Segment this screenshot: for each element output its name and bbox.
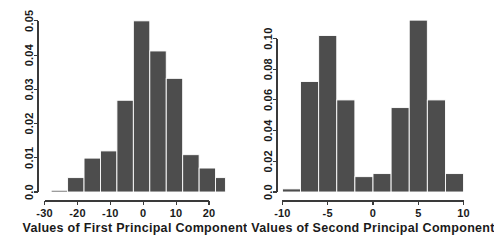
second-pc-x-tick-label: -10 [274,207,291,219]
first-pc-x-tick-label: 10 [170,207,183,219]
first-pc-x-tick-label: 20 [203,207,216,219]
histogram-bar [391,108,409,192]
first-pc-bars [51,21,225,192]
panel-second-principal-component: 0.00.020.040.060.080.10-10-50510Values o… [247,0,494,237]
second-pc-y-tick-label: 0.08 [262,58,274,80]
histogram-bar [355,177,373,192]
histogram-bar [100,151,116,192]
second-pc-y-tick-label: 0.0 [262,184,274,200]
first-pc-x-tick-label: -10 [102,207,119,219]
histogram-bar [166,78,182,192]
histogram-bar [150,51,166,192]
histogram-bar [84,158,100,192]
first-pc-y-tick-label: 0.03 [23,78,35,100]
second-pc-x-tick-label: 5 [415,207,421,219]
chart-first-principal-component: 0.00.010.020.030.040.05-30-20-1001020Val… [0,0,247,237]
histogram-bar [68,178,84,192]
histogram-bar [319,35,337,192]
first-pc-x-tick-label: 0 [140,207,146,219]
second-pc-y-tick-label: 0.06 [262,89,274,111]
histogram-bar [199,168,215,192]
histogram-bar [183,155,199,192]
second-pc-x-tick-label: 10 [457,207,470,219]
first-pc-y-tick-label: 0.05 [23,10,35,32]
first-pc-x-axis-title: Values of First Principal Component [22,221,247,235]
second-pc-x-tick-label: -5 [323,207,333,219]
histogram-bar [117,100,133,192]
histogram-bar [216,178,226,192]
histogram-figure: 0.00.010.020.030.040.05-30-20-1001020Val… [0,0,494,237]
histogram-bar [133,21,149,192]
histogram-bar [301,82,319,192]
histogram-bar [409,20,427,192]
second-pc-y-tick-label: 0.02 [262,150,274,172]
second-pc-x-tick-label: 0 [370,207,376,219]
second-pc-y-tick-label: 0.04 [262,119,274,142]
chart-second-principal-component: 0.00.020.040.060.080.10-10-50510Values o… [247,0,494,237]
histogram-bar [427,100,445,192]
histogram-bar [337,100,355,192]
histogram-bar [373,174,391,192]
first-pc-y-tick-label: 0.02 [23,112,35,134]
histogram-bar [51,190,67,192]
histogram-bar [445,174,463,192]
panel-first-principal-component: 0.00.010.020.030.040.05-30-20-1001020Val… [0,0,247,237]
second-pc-bars [282,20,463,192]
first-pc-y-tick-label: 0.0 [23,184,35,200]
second-pc-y-tick-label: 0.10 [262,27,274,49]
first-pc-x-tick-label: -30 [36,207,53,219]
second-pc-x-axis-title: Values of Second Principal Component [251,221,494,235]
histogram-bar [282,189,300,192]
first-pc-y-tick-label: 0.01 [23,147,35,169]
first-pc-y-tick-label: 0.04 [23,43,35,66]
first-pc-x-tick-label: -20 [69,207,86,219]
